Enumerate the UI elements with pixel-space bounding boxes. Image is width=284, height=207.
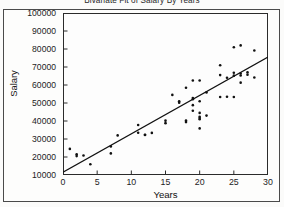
data-point [151,132,154,135]
x-tick-label: 20 [195,177,205,187]
data-point [205,114,208,117]
x-tick-label: 15 [161,177,171,187]
y-tick-label: 70000 [32,63,56,71]
data-point [198,118,201,121]
data-point [164,119,167,122]
axis-tick-marks [63,13,268,175]
page-title: Bivariate Fit of Salary By Years [0,0,284,5]
bivariate-fit-report: Bivariate Fit of Salary By Years 1000020… [0,0,284,207]
x-tick-label: 25 [229,177,239,187]
data-point [233,71,236,74]
y-tick-label: 90000 [32,27,56,35]
scatter-plot [63,13,268,175]
y-tick-label: 100000 [27,9,56,17]
data-point [192,109,195,112]
data-point [198,127,201,130]
x-tick-label: 30 [263,177,273,187]
y-tick-label: 20000 [32,153,56,161]
data-point [185,119,188,122]
data-point [253,76,256,79]
data-point [198,100,201,103]
regression-fit-line [63,57,268,172]
data-point [192,98,195,101]
y-tick-label: 30000 [32,135,56,143]
x-tick-label: 0 [61,177,66,187]
data-point [164,122,167,125]
data-point [246,73,249,76]
data-point [137,124,140,127]
data-point [205,91,208,94]
data-point [226,77,229,80]
data-point [75,155,78,158]
y-tick-label: 60000 [32,81,56,89]
data-point [239,44,242,47]
y-tick-label: 40000 [32,117,56,125]
x-axis-tick-labels: 051015202530 [63,177,268,189]
x-tick-label: 10 [126,177,136,187]
data-point [233,74,236,77]
fit-line-segment [63,57,268,172]
y-axis-title: Salary [8,54,19,114]
data-point [110,152,113,155]
y-tick-label: 10000 [32,171,56,179]
data-point [89,163,92,166]
data-point [198,79,201,82]
data-point [239,81,242,84]
y-tick-label: 80000 [32,45,56,53]
data-point [137,131,140,134]
y-tick-label: 50000 [32,99,56,107]
data-point [226,95,229,98]
data-point [246,71,249,74]
data-point [110,145,113,148]
data-point [185,86,188,89]
data-point [198,112,201,115]
data-point [192,79,195,82]
data-point [192,104,195,107]
plot-canvas [63,13,268,175]
data-point [219,64,222,67]
data-point [69,148,72,151]
data-point [219,74,222,77]
x-axis-title: Years [63,189,268,200]
data-point [171,94,174,97]
data-point [233,46,236,49]
data-point [178,100,181,103]
data-point [233,96,236,99]
data-points [69,44,256,165]
data-point [82,154,85,157]
data-point [239,74,242,77]
data-point [253,49,256,52]
data-point [144,133,147,136]
data-point [116,134,119,137]
data-point [219,96,222,99]
x-tick-label: 5 [95,177,100,187]
